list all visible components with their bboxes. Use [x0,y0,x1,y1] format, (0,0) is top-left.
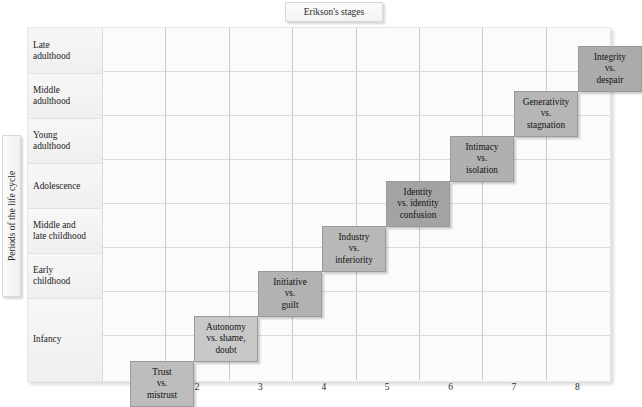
grid-cell-r4-c8 [547,160,610,204]
grid-cell-r5-c2 [166,204,229,248]
grid-cell-r5-c8 [547,204,610,248]
grid-cell-r2-c1 [103,72,166,116]
grid-cell-r1-c7 [483,28,546,72]
grid-cell-r6-c8 [547,248,610,292]
chart-title-label: Erikson's stages [304,7,365,17]
grid-cell-r8-c4 [293,336,356,380]
row-label-infancy: Infancy [28,299,102,380]
grid-cell-r3-c5 [357,116,420,160]
stage-cell-line: Initiative [273,277,307,289]
stage-cell-integrity-vs-despair[interactable]: Integrityvs.despair [578,46,642,92]
grid-cell-r8-c8 [547,336,610,380]
stage-cell-line: vs. [605,63,616,75]
grid-cell-r7-c6 [420,292,483,336]
grid-cell-r2-c5 [357,72,420,116]
grid-cell-r6-c2 [166,248,229,292]
stage-cell-intimacy-vs-isolation[interactable]: Intimacyvs.isolation [450,136,514,182]
grid-cell-r7-c8 [547,292,610,336]
chart-title-tab: Erikson's stages [285,2,383,22]
grid-cell-r1-c4 [293,28,356,72]
stage-cell-line: Generativity [523,97,569,109]
stage-cell-line: despair [597,75,624,87]
grid-cell-r2-c2 [166,72,229,116]
grid-cell-r8-c5 [357,336,420,380]
row-label-early-childhood: Earlychildhood [28,254,102,299]
y-axis-label: Periods of the life cycle [7,171,17,261]
stage-cell-line: mistrust [147,390,177,402]
stage-cell-generativity-vs-stagnation[interactable]: Generativityvs.stagnation [514,91,578,137]
row-label-column: LateadulthoodMiddleadulthoodYoungadultho… [28,28,103,381]
stage-cell-line: stagnation [527,120,565,132]
row-label-late-adulthood: Lateadulthood [28,29,102,74]
stage-cell-line: vs. shame, [207,333,246,345]
stage-cell-line: confusion [400,210,437,222]
stage-cell-industry-vs-inferiority[interactable]: Industryvs.inferiority [322,226,386,272]
stage-cell-line: vs. [349,243,360,255]
grid-cell-r4-c3 [230,160,293,204]
grid-cell-r7-c1 [103,292,166,336]
stage-cell-identity-vs-identity-confusion[interactable]: Identityvs. identityconfusion [386,181,450,227]
grid-cell-r7-c7 [483,292,546,336]
row-label-text: Adolescence [33,181,81,192]
grid-cell-r3-c1 [103,116,166,160]
grid-cell-r1-c3 [230,28,293,72]
grid-cell-r4-c4 [293,160,356,204]
grid-cell-r2-c6 [420,72,483,116]
stage-cell-line: Trust [152,367,171,379]
stage-cell-line: Industry [339,232,370,244]
x-axis-tick-4: 4 [309,382,339,392]
stage-cell-line: doubt [215,345,236,357]
grid-cell-r5-c7 [483,204,546,248]
grid-cell-r2-c4 [293,72,356,116]
grid-cell-r1-c5 [357,28,420,72]
grid-cell-r6-c6 [420,248,483,292]
grid-cell-r3-c2 [166,116,229,160]
stage-cell-line: Integrity [594,52,626,64]
grid-cell-r2-c3 [230,72,293,116]
row-label-text: Middleadulthood [33,85,70,107]
grid-cell-r8-c7 [483,336,546,380]
x-axis-tick-6: 6 [436,382,466,392]
grid-cell-r1-c1 [103,28,166,72]
stage-cell-line: guilt [281,300,298,312]
grid-cell-r6-c7 [483,248,546,292]
row-label-text: Infancy [33,334,61,345]
stage-cell-line: vs. [541,108,552,120]
row-label-text: Lateadulthood [33,40,70,62]
grid-cell-r7-c5 [357,292,420,336]
y-axis-label-tab: Periods of the life cycle [2,135,21,297]
x-axis-tick-3: 3 [245,382,275,392]
grid-cell-r1-c2 [166,28,229,72]
stage-cell-line: inferiority [335,255,373,267]
grid-cell-r3-c3 [230,116,293,160]
stage-cell-trust-vs-mistrust[interactable]: Trustvs.mistrust [130,361,194,407]
stage-cell-line: Intimacy [465,142,498,154]
x-axis-tick-5: 5 [372,382,402,392]
row-label-young-adulthood: Youngadulthood [28,119,102,164]
matrix-grid: Trustvs.mistrustAutonomyvs. shame,doubtI… [103,28,610,381]
stage-cell-line: Autonomy [206,322,246,334]
grid-cell-r3-c4 [293,116,356,160]
stage-cell-line: vs. [157,378,168,390]
stage-cell-line: isolation [466,165,498,177]
grid-cell-r4-c1 [103,160,166,204]
stage-cell-autonomy-vs-shame-doubt[interactable]: Autonomyvs. shame,doubt [194,316,258,362]
row-label-text: Middle andlate childhood [33,220,86,242]
stage-cell-initiative-vs-guilt[interactable]: Initiativevs.guilt [258,271,322,317]
x-axis-tick-7: 7 [499,382,529,392]
row-label-middle-late-childhood: Middle andlate childhood [28,209,102,254]
stage-cell-line: vs. [285,288,296,300]
stage-cell-line: vs. [477,153,488,165]
grid-cell-r6-c1 [103,248,166,292]
grid-cell-r1-c6 [420,28,483,72]
row-label-text: Earlychildhood [33,265,70,287]
stage-cell-line: vs. identity [397,198,438,210]
grid-cell-r8-c6 [420,336,483,380]
stage-cell-line: Identity [404,187,433,199]
row-label-middle-adulthood: Middleadulthood [28,74,102,119]
grid-cell-r5-c3 [230,204,293,248]
grid-cell-r5-c1 [103,204,166,248]
erikson-stage-matrix: LateadulthoodMiddleadulthoodYoungadultho… [27,27,611,382]
x-axis-tick-8: 8 [562,382,592,392]
row-label-text: Youngadulthood [33,130,70,152]
